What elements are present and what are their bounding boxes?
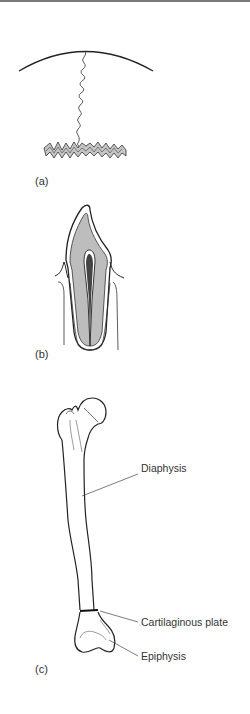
annotation-epiphysis: Epiphysis <box>141 650 186 662</box>
panel-label-a: (a) <box>35 175 48 187</box>
annotation-diaphysis: Diaphysis <box>141 462 187 474</box>
panel-label-b: (b) <box>35 348 48 360</box>
panel-b-tooth-illustration <box>55 205 124 350</box>
panel-c-femur-illustration <box>58 398 139 656</box>
annotation-cartilaginous-plate: Cartilaginous plate <box>141 616 228 628</box>
panel-label-c: (c) <box>35 663 48 675</box>
panel-a-illustration <box>19 51 153 158</box>
